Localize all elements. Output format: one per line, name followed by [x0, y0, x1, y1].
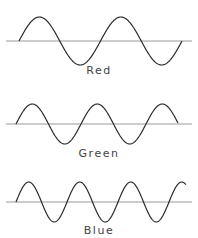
wave-diagram [0, 0, 198, 238]
blue-wave [6, 182, 192, 222]
green-wave [6, 104, 192, 144]
red-label: Red [0, 64, 198, 77]
red-wave [6, 17, 192, 65]
green-label: Green [0, 147, 198, 160]
blue-label: Blue [0, 224, 198, 237]
